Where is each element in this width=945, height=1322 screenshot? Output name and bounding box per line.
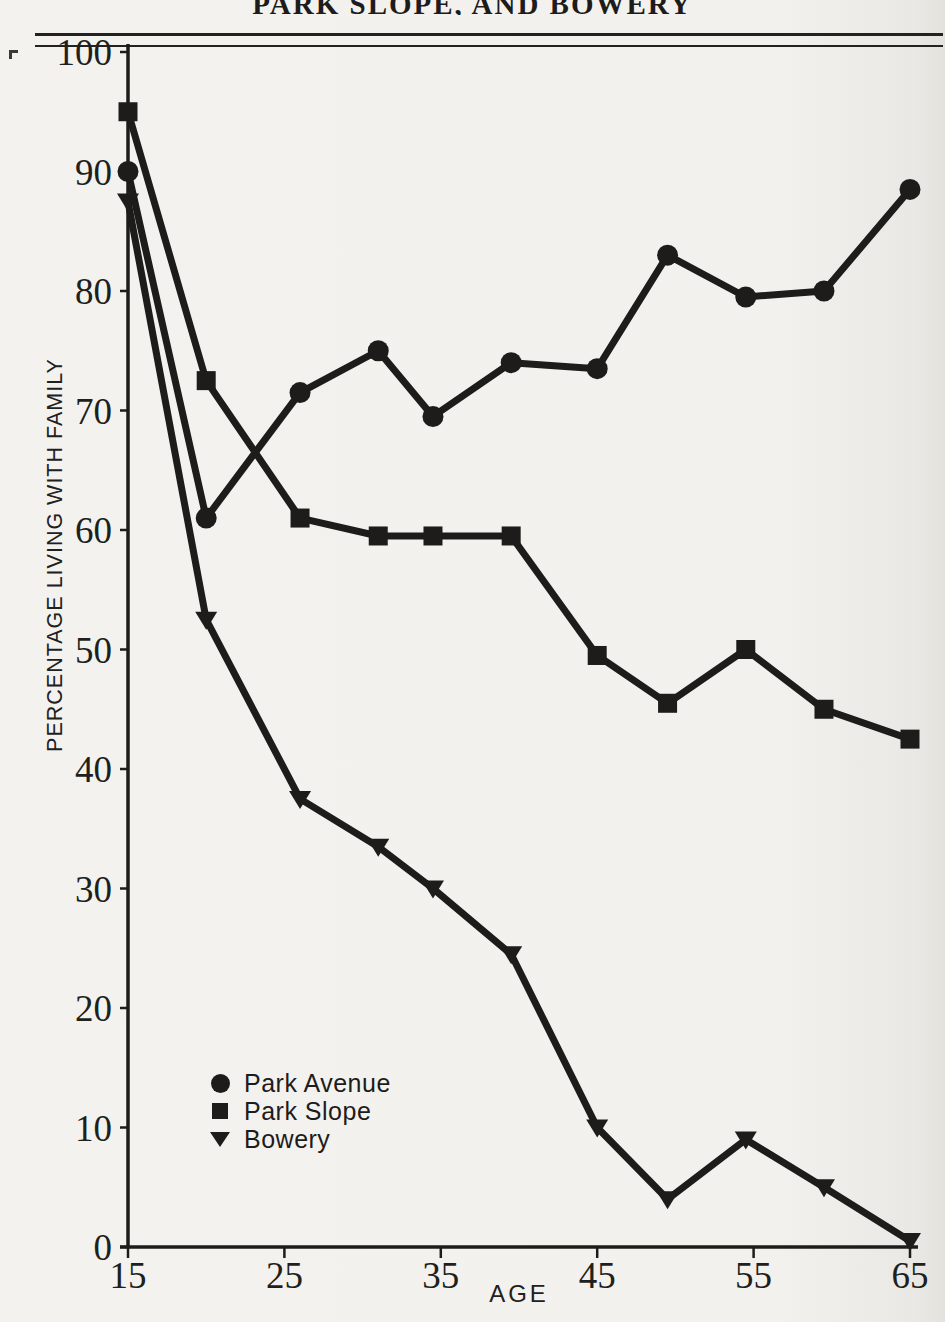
x-tick-label: 65 — [892, 1255, 929, 1296]
y-tick-label: 40 — [75, 749, 112, 790]
y-tick-label: 80 — [75, 271, 112, 312]
data-point-circle-park-avenue — [735, 286, 756, 307]
legend-label: Park Avenue — [233, 1069, 391, 1098]
data-point-circle-park-avenue — [290, 382, 311, 403]
data-point-circle-park-avenue — [813, 281, 834, 302]
data-point-circle-park-avenue — [657, 245, 678, 266]
series-line-park-slope — [128, 112, 910, 739]
y-tick-label: 50 — [75, 630, 112, 671]
x-tick-label: 15 — [110, 1255, 147, 1296]
data-point-circle-park-avenue — [368, 340, 389, 361]
legend-item: Park Slope — [207, 1097, 391, 1125]
y-tick-label: 100 — [57, 32, 113, 73]
data-point-square-park-slope — [814, 700, 833, 719]
legend: Park Avenue Park Slope Bowery — [207, 1069, 391, 1153]
data-point-square-park-slope — [197, 371, 216, 390]
data-point-circle-park-avenue — [587, 358, 608, 379]
legend-label: Park Slope — [233, 1097, 371, 1126]
y-axis-title: PERCENTAGE LIVING WITH FAMILY — [43, 358, 68, 752]
data-point-square-park-slope — [502, 526, 521, 545]
y-tick-label: 90 — [75, 152, 112, 193]
series-line-park-avenue — [128, 172, 910, 519]
data-point-circle-park-avenue — [900, 179, 921, 200]
x-tick-label: 25 — [266, 1255, 303, 1296]
legend-label: Bowery — [233, 1125, 330, 1154]
data-point-circle-park-avenue — [196, 508, 217, 529]
data-point-square-park-slope — [291, 509, 310, 528]
x-axis-title: AGE — [419, 1280, 619, 1308]
data-point-square-park-slope — [658, 694, 677, 713]
data-point-circle-park-avenue — [118, 161, 139, 182]
page-root: PARK SLOPE, AND BOWERY 01020304050607080… — [0, 0, 945, 1322]
y-tick-label: 10 — [75, 1108, 112, 1149]
data-point-triangle-bowery — [657, 1191, 679, 1209]
data-point-triangle-bowery — [500, 946, 522, 964]
circle-marker-icon — [211, 1074, 230, 1093]
data-point-square-park-slope — [119, 102, 138, 121]
data-point-square-park-slope — [901, 730, 920, 749]
data-point-square-park-slope — [369, 526, 388, 545]
data-point-square-park-slope — [423, 526, 442, 545]
data-point-circle-park-avenue — [501, 352, 522, 373]
y-tick-label: 30 — [75, 869, 112, 910]
data-point-circle-park-avenue — [422, 406, 443, 427]
data-point-square-park-slope — [588, 646, 607, 665]
square-marker-icon — [212, 1103, 228, 1119]
data-point-square-park-slope — [736, 640, 755, 659]
triangle-down-marker-icon — [210, 1132, 230, 1147]
y-tick-label: 70 — [75, 391, 112, 432]
y-tick-label: 60 — [75, 510, 112, 551]
line-chart-canvas: 0102030405060708090100152535455565 — [0, 0, 945, 1322]
x-tick-label: 55 — [735, 1255, 772, 1296]
legend-item: Bowery — [207, 1125, 391, 1153]
legend-item: Park Avenue — [207, 1069, 391, 1097]
y-tick-label: 20 — [75, 988, 112, 1029]
